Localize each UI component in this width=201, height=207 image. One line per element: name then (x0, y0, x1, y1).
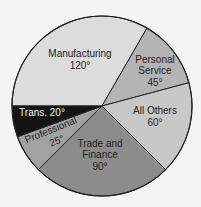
label-manufacturing: Manufacturing (48, 48, 111, 59)
label-all-others: All Others (133, 105, 177, 116)
label-personal: Personal (135, 54, 174, 65)
value-trade-finance: 90° (92, 161, 107, 172)
value-personal-service: 45° (147, 77, 162, 88)
label-finance: Finance (82, 149, 118, 160)
value-manufacturing: 120° (70, 60, 91, 71)
value-all-others: 60° (147, 117, 162, 128)
label-trade-and: Trade and (77, 138, 122, 149)
label-trans: Trans. 20° (19, 107, 65, 118)
pie-chart: Manufacturing 120° Personal Service 45° … (0, 0, 201, 207)
label-service: Service (138, 65, 172, 76)
